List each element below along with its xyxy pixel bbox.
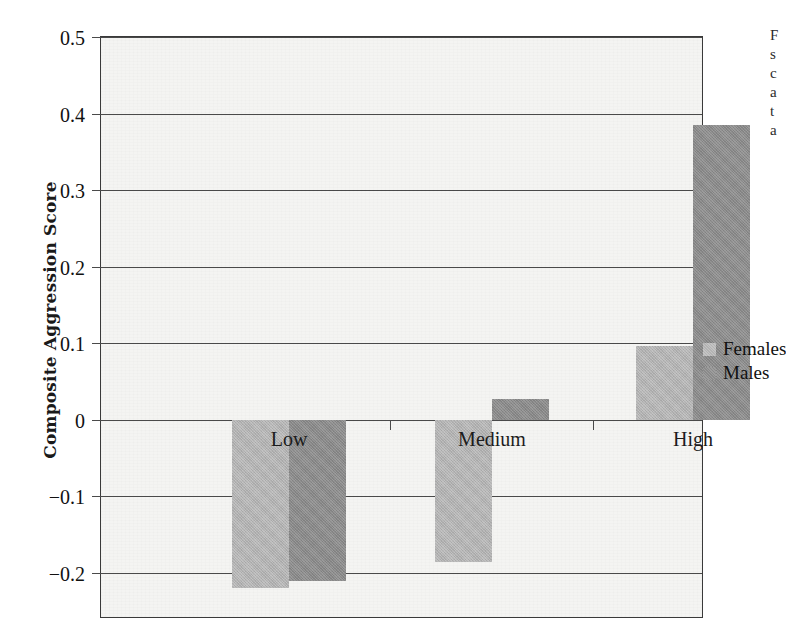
x-tick-0 [390,420,391,430]
y-tick-label: −0.2 [49,563,85,586]
category-label-high: High [673,428,713,451]
caption-sliver-line: F [770,26,784,45]
legend-swatch-icon [703,367,716,380]
caption-sliver-line: c [770,64,784,83]
category-label-medium: Medium [458,428,526,451]
caption-sliver-line: a [770,121,784,140]
y-tick-0.2: 0.2 [92,267,101,268]
y-tick-0: 0 [92,420,101,421]
caption-sliver: Fscatab [770,26,784,141]
gridline-y-0 [101,420,702,421]
y-tick-label: 0.5 [60,27,85,50]
caption-sliver-line: t [770,102,784,121]
gridline-y--0.2 [101,573,702,574]
bar-high-females [636,346,693,420]
y-tick-0.1: 0.1 [92,343,101,344]
category-label-low: Low [271,428,308,451]
gridline-y-0.4 [101,114,702,115]
gridline-y-0.3 [101,190,702,191]
y-tick-label: 0.1 [60,333,85,356]
y-tick-0.3: 0.3 [92,190,101,191]
y-tick-0.4: 0.4 [92,114,101,115]
y-tick-0.5: 0.5 [92,37,101,38]
gridline-y-0.2 [101,267,702,268]
legend: FemalesMales [703,337,784,385]
legend-label: Males [723,362,769,384]
legend-swatch-icon [703,343,716,356]
y-tick--0.1: −0.1 [92,496,101,497]
gridline-y-0.5 [101,37,702,38]
y-tick-label: 0.3 [60,180,85,203]
legend-label: Females [723,338,786,360]
y-axis-title: Composite Aggression Score [40,180,60,460]
x-tick-1 [593,420,594,430]
gridline-y--0.1 [101,496,702,497]
y-tick-label: 0.2 [60,256,85,279]
y-tick-label: 0 [75,409,85,432]
caption-sliver-line: s [770,45,784,64]
y-tick-label: −0.1 [49,486,85,509]
bar-medium-males [492,399,549,420]
y-tick--0.2: −0.2 [92,573,101,574]
gridline-y-0.1 [101,343,702,344]
legend-item-females: Females [703,337,784,361]
legend-item-males: Males [703,361,784,385]
y-tick-label: 0.4 [60,103,85,126]
caption-sliver-line: b [770,140,784,141]
plot-area: 0.50.40.30.20.10−0.1−0.2 LowMediumHigh [100,36,703,618]
caption-sliver-line: a [770,83,784,102]
